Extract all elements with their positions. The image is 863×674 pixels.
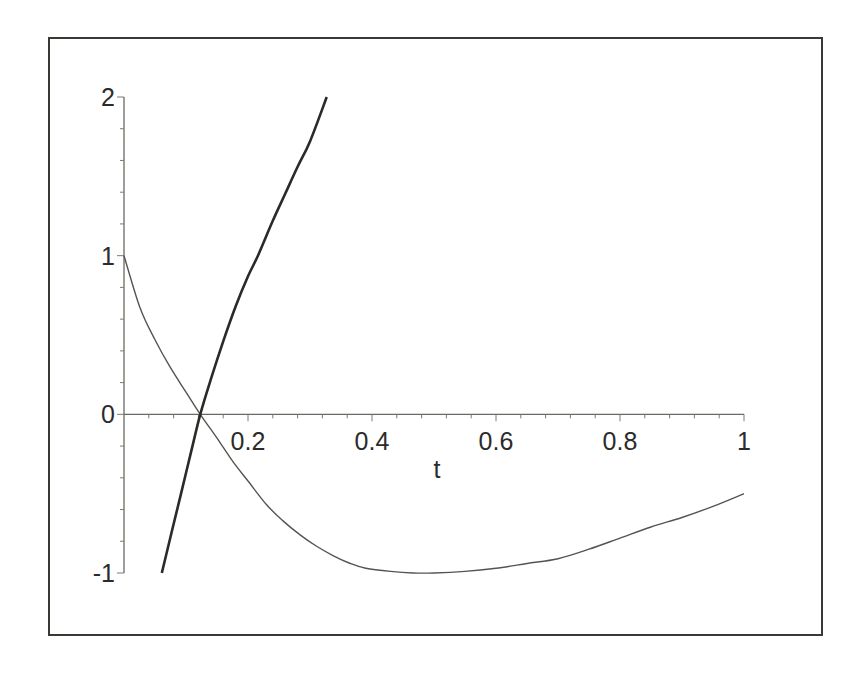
x-tick-label: 0.8 bbox=[603, 427, 638, 455]
y-tick-label: -1 bbox=[93, 559, 115, 587]
y-tick-label: 1 bbox=[101, 242, 115, 270]
x-tick-label: 0.4 bbox=[355, 427, 390, 455]
thick-curve-line bbox=[162, 97, 327, 573]
x-tick-label: 0.6 bbox=[479, 427, 514, 455]
axes: 0.20.40.60.81-1012 t bbox=[93, 83, 751, 587]
tick-marks bbox=[117, 97, 744, 573]
y-tick-label: 2 bbox=[101, 83, 115, 111]
x-axis-label: t bbox=[434, 455, 441, 483]
tick-labels: 0.20.40.60.81-1012 bbox=[93, 83, 751, 587]
y-tick-label: 0 bbox=[101, 400, 115, 428]
x-tick-label: 0.2 bbox=[231, 427, 266, 455]
x-tick-label: 1 bbox=[737, 427, 751, 455]
series-group bbox=[124, 97, 744, 573]
chart: 0.20.40.60.81-1012 t bbox=[0, 0, 863, 674]
